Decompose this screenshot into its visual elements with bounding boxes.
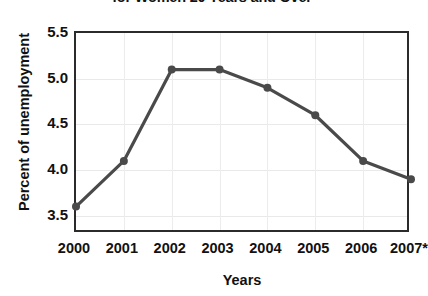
data-point-marker: 2007*: 3.9	[407, 175, 415, 183]
x-tick-label: 2002	[154, 241, 186, 256]
y-tick-label: 5.5	[30, 24, 68, 39]
x-tick-label: 2003	[201, 241, 233, 256]
data-point-marker: 2006: 4.1	[359, 157, 367, 165]
y-tick-label: 3.5	[30, 207, 68, 222]
data-point-marker: 2003: 5.1	[216, 66, 224, 74]
data-point-marker: 2005: 4.6	[311, 111, 319, 119]
y-tick-label: 4.5	[30, 115, 68, 130]
line-series: 2000: 3.62001: 4.12002: 5.12003: 5.12004…	[76, 33, 411, 234]
x-tick-label: 2000	[58, 241, 90, 256]
data-point-marker: 2004: 4.9	[263, 84, 271, 92]
x-tick-label: 2001	[106, 241, 138, 256]
x-axis-tick-labels: 20002001200220032004200520062007*	[74, 241, 409, 259]
y-tick-label: 4.0	[30, 161, 68, 176]
x-axis-title: Years	[74, 272, 410, 288]
x-tick-label: 2006	[345, 241, 377, 256]
x-tick-label: 2005	[297, 241, 329, 256]
data-point-marker: 2000: 3.6	[72, 203, 80, 211]
chart-title: for Women 20 Years and Over	[0, 0, 424, 5]
plot-area: 2000: 3.62001: 4.12002: 5.12003: 5.12004…	[74, 31, 409, 232]
x-tick-label: 2007*	[390, 241, 428, 256]
x-tick-label: 2004	[249, 241, 281, 256]
y-tick-label: 5.0	[30, 70, 68, 85]
series-line	[76, 70, 411, 207]
data-point-marker: 2002: 5.1	[168, 66, 176, 74]
data-point-marker: 2001: 4.1	[120, 157, 128, 165]
